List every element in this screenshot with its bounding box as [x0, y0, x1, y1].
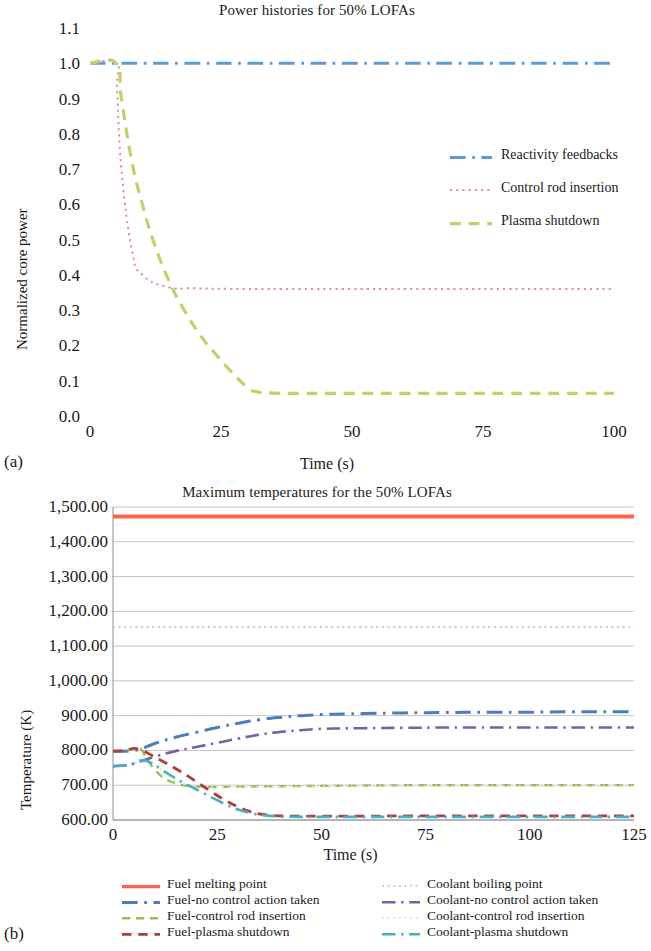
chart-a-y-tick: 1.1	[28, 20, 80, 37]
chart-b-legend-label: Fuel-plasma shutdown	[167, 925, 290, 939]
chart-b-y-tick: 1,100.00	[24, 637, 108, 654]
chart-b-y-tick: 1,500.00	[24, 498, 108, 515]
chart-a-y-tick: 0.1	[28, 373, 80, 390]
chart-a-legend: Reactivity feedbacksControl rod insertio…	[450, 138, 618, 237]
chart-a-x-tick: 100	[584, 423, 644, 440]
chart-a-legend-label: Control rod insertion	[501, 180, 618, 196]
chart-b-x-tick: 50	[291, 826, 351, 843]
chart-a-y-tick: 0.5	[28, 232, 80, 249]
chart-b-legend-label: Fuel-control rod insertion	[167, 909, 306, 923]
chart-b-legend-item: Fuel melting point	[122, 876, 320, 892]
chart-b-x-axis-label: Time (s)	[90, 846, 611, 864]
subfigure-label-b: (b)	[4, 924, 24, 944]
chart-b-x-tick: 75	[396, 826, 456, 843]
chart-a-y-tick: 1.0	[28, 55, 80, 72]
chart-panel-maximum-temperatures: Maximum temperatures for the 50% LOFAs T…	[0, 480, 634, 951]
series-coolant-plasma-shutdown	[113, 760, 634, 817]
chart-a-y-tick: 0.7	[28, 161, 80, 178]
series-fuel-plasma-shutdown	[113, 748, 634, 816]
chart-b-legend-item: Coolant-plasma shutdown	[382, 924, 598, 940]
chart-a-y-tick: 0.8	[28, 126, 80, 143]
chart-b-y-tick: 1,200.00	[24, 602, 108, 619]
chart-b-legend-label: Coolant-control rod insertion	[427, 909, 584, 923]
chart-b-legend-label: Coolant-plasma shutdown	[427, 925, 568, 939]
chart-b-y-axis-label: Temperature (K)	[18, 710, 35, 810]
chart-a-legend-item: Reactivity feedbacks	[450, 138, 618, 171]
series-coolant-control-rod-insertion	[113, 760, 634, 787]
chart-b-y-tick: 1,000.00	[24, 672, 108, 689]
chart-b-x-tick: 125	[604, 826, 651, 843]
chart-a-legend-item: Plasma shutdown	[450, 204, 618, 237]
chart-a-y-tick: 0.6	[28, 196, 80, 213]
chart-b-legend-column-coolant: Coolant boiling pointCoolant-no control …	[382, 876, 598, 940]
chart-b-legend-item: Coolant-control rod insertion	[382, 908, 598, 924]
chart-a-y-tick: 0.4	[28, 267, 80, 284]
chart-b-legend-item: Fuel-plasma shutdown	[122, 924, 320, 940]
chart-panel-power-histories: Power histories for 50% LOFAs Normalized…	[0, 0, 634, 480]
chart-b-y-tick: 1,400.00	[24, 533, 108, 550]
chart-b-legend-item: Fuel-control rod insertion	[122, 908, 320, 924]
chart-a-legend-label: Reactivity feedbacks	[501, 147, 618, 163]
chart-b-legend-item: Fuel-no control action taken	[122, 892, 320, 908]
chart-b-y-tick: 800.00	[24, 741, 108, 758]
chart-b-legend-label: Coolant boiling point	[427, 877, 543, 891]
chart-a-x-tick: 0	[60, 423, 120, 440]
chart-b-plot-area	[113, 507, 634, 820]
chart-b-legend-column-fuel: Fuel melting pointFuel-no control action…	[122, 876, 320, 940]
chart-b-legend-label: Fuel-no control action taken	[167, 893, 320, 907]
chart-a-x-axis-label: Time (s)	[65, 455, 589, 473]
subfigure-label-a: (a)	[4, 452, 23, 472]
chart-b-legend-label: Fuel melting point	[167, 877, 267, 891]
series-coolant-no-control-action-taken	[113, 727, 634, 766]
chart-b-y-tick: 700.00	[24, 776, 108, 793]
series-fuel-no-control-action-taken	[113, 712, 634, 751]
chart-b-y-tick: 1,300.00	[24, 568, 108, 585]
chart-b-legend-item: Coolant boiling point	[382, 876, 598, 892]
chart-a-y-tick: 0.2	[28, 337, 80, 354]
chart-b-legend-label: Coolant-no control action taken	[427, 893, 598, 907]
series-fuel-control-rod-insertion	[113, 747, 634, 786]
chart-a-x-tick: 75	[453, 423, 513, 440]
chart-a-x-tick: 25	[191, 423, 251, 440]
chart-a-title: Power histories for 50% LOFAs	[0, 2, 634, 19]
chart-b-x-tick: 0	[83, 826, 143, 843]
chart-a-y-tick: 0.9	[28, 91, 80, 108]
chart-b-x-tick: 100	[500, 826, 560, 843]
chart-b-legend: Fuel melting pointFuel-no control action…	[0, 876, 634, 946]
chart-b-y-tick: 900.00	[24, 707, 108, 724]
chart-b-x-tick: 25	[187, 826, 247, 843]
chart-b-legend-item: Coolant-no control action taken	[382, 892, 598, 908]
chart-a-x-tick: 50	[322, 423, 382, 440]
chart-a-y-tick: 0.3	[28, 302, 80, 319]
chart-a-legend-item: Control rod insertion	[450, 171, 618, 204]
chart-a-legend-label: Plasma shutdown	[501, 213, 599, 229]
